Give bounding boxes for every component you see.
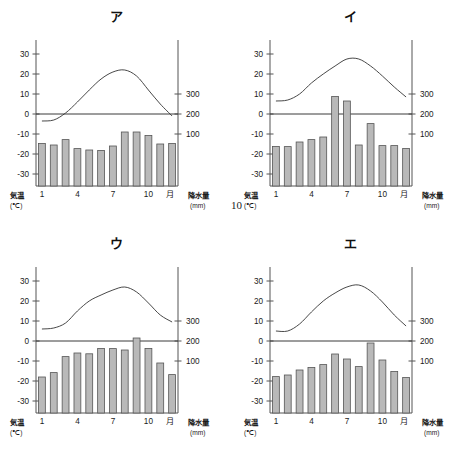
svg-text:月: 月 [166, 417, 174, 426]
svg-text:30: 30 [254, 277, 264, 286]
svg-text:月: 月 [400, 417, 408, 426]
climate-chart-panel-e: エ 3020100-10-20-3030020010014710月気温(℃)降水… [234, 227, 468, 453]
svg-text:200: 200 [420, 110, 434, 119]
chart-plot-e: 3020100-10-20-3030020010014710月気温(℃)降水量(… [234, 245, 468, 453]
svg-text:-20: -20 [17, 377, 29, 386]
svg-text:(℃): (℃) [10, 429, 22, 437]
chart-plot-u: 3020100-10-20-3030020010014710月気温(℃)降水量(… [0, 245, 234, 453]
svg-text:1: 1 [40, 190, 45, 199]
svg-text:1: 1 [40, 417, 45, 426]
svg-text:200: 200 [420, 337, 434, 346]
svg-text:-10: -10 [17, 357, 29, 366]
svg-text:降水量: 降水量 [422, 191, 444, 200]
svg-text:100: 100 [420, 357, 434, 366]
svg-text:気温: 気温 [9, 191, 25, 200]
svg-text:10: 10 [254, 90, 264, 99]
svg-text:-10: -10 [251, 357, 263, 366]
svg-text:7: 7 [111, 417, 116, 426]
svg-text:100: 100 [420, 130, 434, 139]
svg-text:-20: -20 [251, 377, 263, 386]
svg-text:4: 4 [75, 417, 80, 426]
svg-text:-30: -30 [17, 397, 29, 406]
climate-chart-panel-u: ウ 3020100-10-20-3030020010014710月気温(℃)降水… [0, 227, 234, 453]
climate-chart-panel-a: ア 3020100-10-20-3030020010014710月気温(℃)降水… [0, 0, 234, 226]
svg-text:-20: -20 [17, 150, 29, 159]
svg-text:-10: -10 [17, 130, 29, 139]
svg-text:4: 4 [309, 190, 314, 199]
svg-text:-30: -30 [17, 170, 29, 179]
svg-text:気温: 気温 [9, 418, 25, 427]
svg-text:月: 月 [400, 190, 408, 199]
svg-text:(mm): (mm) [190, 202, 205, 210]
climate-chart-panel-i: イ 3020100-10-20-3030020010014710月気温(℃)降水… [234, 0, 468, 226]
climate-graph-figure: ア 3020100-10-20-3030020010014710月気温(℃)降水… [0, 0, 468, 453]
svg-text:20: 20 [254, 297, 264, 306]
svg-text:100: 100 [186, 357, 200, 366]
svg-text:4: 4 [75, 190, 80, 199]
svg-text:300: 300 [420, 90, 434, 99]
svg-text:10: 10 [20, 317, 30, 326]
svg-text:10: 10 [254, 317, 264, 326]
page-number: 10 [231, 199, 242, 211]
svg-text:10: 10 [144, 190, 154, 199]
svg-text:200: 200 [186, 110, 200, 119]
svg-text:気温: 気温 [243, 191, 259, 200]
chart-plot-i: 3020100-10-20-3030020010014710月気温(℃)降水量(… [234, 18, 468, 226]
svg-text:0: 0 [258, 337, 263, 346]
svg-text:100: 100 [186, 130, 200, 139]
svg-text:1: 1 [274, 417, 279, 426]
svg-text:300: 300 [186, 90, 200, 99]
svg-text:(mm): (mm) [190, 429, 205, 437]
svg-text:-30: -30 [251, 397, 263, 406]
svg-text:降水量: 降水量 [188, 191, 210, 200]
svg-text:10: 10 [378, 417, 388, 426]
svg-text:30: 30 [20, 277, 30, 286]
svg-text:-10: -10 [251, 130, 263, 139]
svg-text:(℃): (℃) [244, 429, 256, 437]
chart-plot-a: 3020100-10-20-3030020010014710月気温(℃)降水量(… [0, 18, 234, 226]
svg-text:1: 1 [274, 190, 279, 199]
svg-text:降水量: 降水量 [422, 418, 444, 427]
svg-text:(mm): (mm) [424, 429, 439, 437]
svg-text:7: 7 [345, 417, 350, 426]
svg-text:-30: -30 [251, 170, 263, 179]
svg-text:7: 7 [111, 190, 116, 199]
svg-text:(mm): (mm) [424, 202, 439, 210]
svg-text:300: 300 [186, 317, 200, 326]
svg-text:月: 月 [166, 190, 174, 199]
svg-text:20: 20 [20, 297, 30, 306]
svg-text:10: 10 [378, 190, 388, 199]
svg-text:30: 30 [254, 50, 264, 59]
svg-text:降水量: 降水量 [188, 418, 210, 427]
svg-text:10: 10 [144, 417, 154, 426]
svg-text:気温: 気温 [243, 418, 259, 427]
svg-text:10: 10 [20, 90, 30, 99]
svg-text:200: 200 [186, 337, 200, 346]
svg-text:(℃): (℃) [244, 202, 256, 210]
svg-text:-20: -20 [251, 150, 263, 159]
svg-text:(℃): (℃) [10, 202, 22, 210]
svg-text:7: 7 [345, 190, 350, 199]
svg-text:20: 20 [20, 70, 30, 79]
svg-text:20: 20 [254, 70, 264, 79]
svg-text:0: 0 [24, 110, 29, 119]
svg-text:0: 0 [258, 110, 263, 119]
svg-text:4: 4 [309, 417, 314, 426]
svg-text:30: 30 [20, 50, 30, 59]
svg-text:0: 0 [24, 337, 29, 346]
svg-text:300: 300 [420, 317, 434, 326]
